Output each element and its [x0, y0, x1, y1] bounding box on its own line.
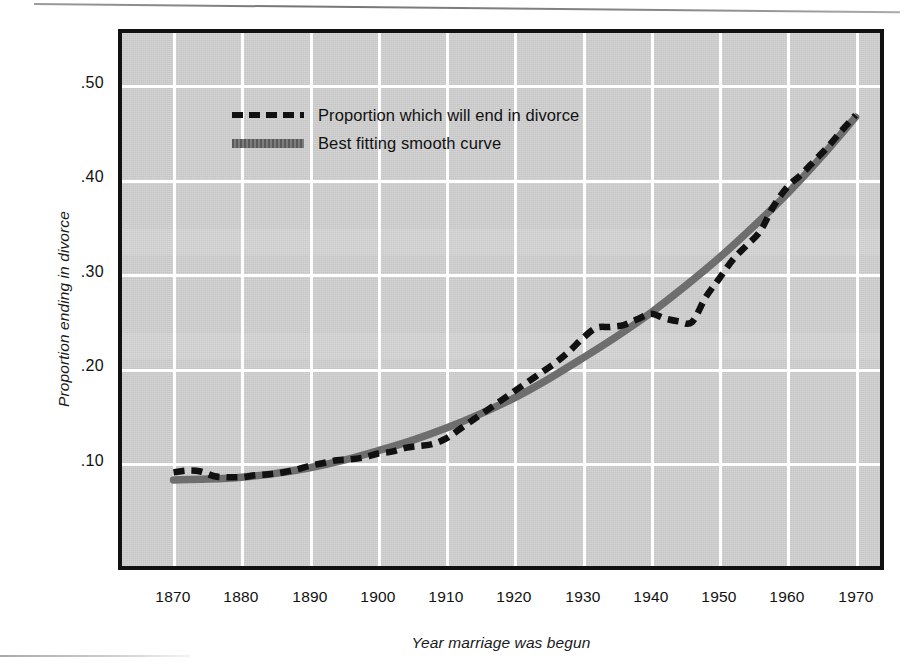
dashed-line-swatch-icon [232, 112, 304, 118]
legend-item-observed: Proportion which will end in divorce [232, 101, 652, 129]
x-tick-label-1920: 1920 [484, 588, 544, 606]
y-tick-label-040: .40 [52, 168, 104, 186]
series-best-fitting-smooth-curve [174, 117, 856, 480]
legend-label-smooth: Best fitting smooth curve [318, 134, 501, 153]
x-axis-title: Year marriage was begun [118, 634, 884, 652]
chart-legend: Proportion which will end in divorce Bes… [232, 101, 652, 157]
y-tick-label-010: .10 [52, 452, 104, 470]
x-tick-label-1890: 1890 [280, 588, 340, 606]
y-tick-label-020: .20 [52, 357, 104, 375]
legend-label-observed: Proportion which will end in divorce [318, 106, 579, 125]
divorce-proportion-chart: Proportion ending in divorce .50 .40 .30… [0, 0, 906, 667]
x-tick-label-1910: 1910 [416, 588, 476, 606]
solid-line-swatch-icon [232, 139, 304, 148]
x-tick-label-1940: 1940 [621, 588, 681, 606]
series-proportion-ending-in-divorce [174, 115, 856, 477]
x-tick-label-1970: 1970 [826, 588, 886, 606]
page-root: Proportion ending in divorce .50 .40 .30… [0, 0, 906, 667]
legend-item-smooth: Best fitting smooth curve [232, 129, 652, 157]
plot-area: Proportion which will end in divorce Bes… [118, 29, 884, 570]
x-tick-label-1900: 1900 [348, 588, 408, 606]
x-tick-label-1960: 1960 [757, 588, 817, 606]
x-tick-label-1880: 1880 [211, 588, 271, 606]
y-tick-label-030: .30 [52, 263, 104, 281]
y-axis-title: Proportion ending in divorce [55, 149, 73, 469]
y-tick-label-050: .50 [52, 74, 104, 92]
x-tick-label-1950: 1950 [689, 588, 749, 606]
x-tick-label-1870: 1870 [143, 588, 203, 606]
x-tick-label-1930: 1930 [553, 588, 613, 606]
